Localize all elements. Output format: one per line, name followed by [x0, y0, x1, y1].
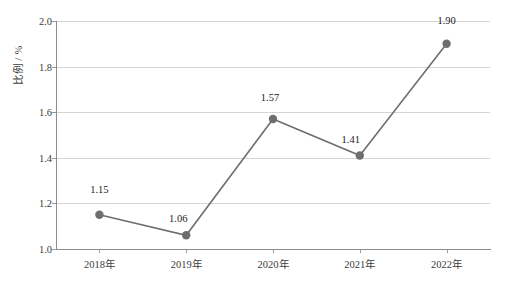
data-point-label: 1.57: [261, 92, 279, 103]
x-tick-label: 2022年: [412, 256, 482, 271]
gridline: [56, 21, 490, 22]
x-tick-label: 2018年: [64, 256, 134, 271]
x-tick-label: 2020年: [238, 256, 308, 271]
x-tick-mark: [360, 249, 361, 253]
gridline: [56, 203, 490, 204]
data-point-marker[interactable]: [266, 112, 280, 126]
x-tick-mark: [273, 249, 274, 253]
data-point-label: 1.15: [90, 183, 108, 194]
data-point-marker[interactable]: [353, 149, 367, 163]
x-tick-mark: [186, 249, 187, 253]
y-tick-label: 1.6: [22, 107, 52, 118]
y-tick-label: 1.4: [22, 152, 52, 163]
data-series-line: [0, 0, 507, 282]
x-tick-label: 2019年: [151, 256, 221, 271]
y-tick-label: 1.8: [22, 61, 52, 72]
x-tick-mark: [99, 249, 100, 253]
data-point-label: 1.90: [437, 14, 455, 25]
data-point-marker[interactable]: [179, 228, 193, 242]
data-point-label: 1.06: [169, 213, 187, 224]
y-tick-label: 1.2: [22, 198, 52, 209]
x-tick-label: 2021年: [325, 256, 395, 271]
data-point-label: 1.41: [342, 133, 360, 144]
data-point-marker[interactable]: [92, 208, 106, 222]
line-chart: 比例 / % 1.01.21.41.61.82.0 2018年2019年2020…: [0, 0, 507, 282]
y-tick-label: 1.0: [22, 244, 52, 255]
y-tick-label: 2.0: [22, 16, 52, 27]
x-tick-mark: [447, 249, 448, 253]
y-axis-line: [56, 21, 57, 250]
gridline: [56, 158, 490, 159]
gridline: [56, 67, 490, 68]
data-point-marker[interactable]: [440, 37, 454, 51]
